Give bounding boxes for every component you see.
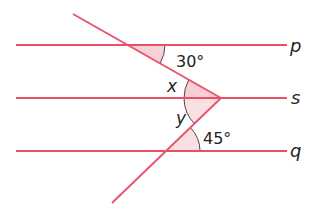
angle-45-shade: [167, 128, 200, 151]
angle-y-label: y: [175, 108, 187, 128]
label-q: q: [290, 140, 301, 161]
angle-30-label: 30°: [176, 52, 204, 71]
parallel-lines-diagram: p s q 30° x y 45°: [0, 0, 314, 208]
angle-x-label: x: [166, 76, 178, 96]
label-p: p: [289, 35, 301, 56]
label-s: s: [291, 87, 300, 108]
angle-y-shade: [184, 98, 221, 124]
angle-45-label: 45°: [203, 129, 231, 148]
